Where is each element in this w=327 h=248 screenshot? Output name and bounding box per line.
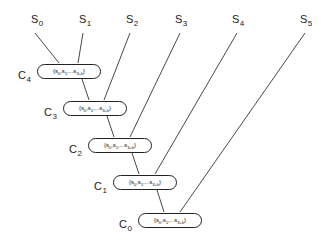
stream-label-subscript: 5 — [308, 19, 312, 28]
cluster-label-subscript: 2 — [77, 149, 81, 158]
edge-s1-to-c4 — [78, 33, 83, 63]
cluster-label-c4: C4 — [18, 70, 30, 81]
stream-label-subscript: 0 — [39, 19, 43, 28]
cluster-label-base: C — [44, 106, 52, 118]
stream-label-base: S — [300, 13, 307, 25]
set-separator: ,s — [111, 142, 115, 148]
set-ellipsis: ,...s — [67, 68, 76, 74]
stream-label-base: S — [126, 13, 133, 25]
set-elem-last-sub: 3+k — [76, 71, 83, 76]
set-separator: ,s — [136, 179, 140, 185]
cluster-label-c1: C1 — [94, 181, 106, 192]
edge-s0-to-c4 — [35, 33, 59, 63]
cluster-label-subscript: 3 — [52, 112, 56, 121]
set-elem-last-sub: 3+k — [177, 220, 184, 225]
diagram-canvas: S0S1S2S3S4S5 C4C3C2C1C0 {s0,s1,...s3+k}{… — [0, 0, 327, 248]
set-ellipsis: ,...s — [93, 105, 102, 111]
cluster-node-set-text: {s0,s1,...s3+k} — [53, 68, 85, 74]
stream-label-s1: S1 — [79, 14, 91, 25]
edge-c3-to-c2 — [107, 116, 114, 137]
set-close-brace: } — [134, 142, 136, 148]
set-separator: ,s — [86, 105, 90, 111]
set-elem-last-sub: 3+k — [127, 145, 134, 150]
set-elem-1-sub: 1 — [141, 182, 143, 187]
stream-label-base: S — [175, 13, 182, 25]
stream-label-s4: S4 — [232, 14, 244, 25]
set-ellipsis: ,...s — [118, 142, 127, 148]
stream-label-s2: S2 — [126, 14, 138, 25]
cluster-label-base: C — [69, 143, 77, 155]
stream-label-subscript: 1 — [87, 19, 91, 28]
stream-label-base: S — [232, 13, 239, 25]
stream-label-s5: S5 — [300, 14, 312, 25]
cluster-node-set-text: {s0,s1,...s3+k} — [79, 105, 111, 111]
set-separator: ,s — [60, 68, 64, 74]
set-elem-0-sub: 0 — [134, 182, 136, 187]
cluster-node-c0[interactable]: {s0,s1,...s3+k} — [138, 213, 202, 228]
stream-label-base: S — [79, 13, 86, 25]
set-close-brace: } — [159, 179, 161, 185]
edge-c1-to-c0 — [157, 190, 164, 212]
set-close-brace: } — [184, 217, 186, 223]
cluster-label-c3: C3 — [44, 107, 56, 118]
set-elem-1-sub: 1 — [65, 71, 67, 76]
stream-label-subscript: 2 — [134, 19, 138, 28]
set-separator: ,s — [161, 217, 165, 223]
edge-s3-to-c2 — [130, 33, 180, 137]
cluster-node-c1[interactable]: {s0,s1,...s3+k} — [113, 175, 177, 190]
set-close-brace: } — [109, 105, 111, 111]
set-elem-0-sub: 0 — [109, 145, 111, 150]
edge-c4-to-c3 — [82, 79, 89, 100]
cluster-label-subscript: 4 — [26, 75, 30, 84]
cluster-label-subscript: 1 — [102, 186, 106, 195]
edge-s2-to-c3 — [104, 33, 130, 100]
set-elem-1-sub: 1 — [116, 145, 118, 150]
edge-c2-to-c1 — [132, 153, 139, 174]
cluster-label-base: C — [119, 218, 127, 230]
cluster-label-base: C — [18, 69, 26, 81]
stream-label-base: S — [31, 13, 38, 25]
set-ellipsis: ,...s — [143, 179, 152, 185]
cluster-node-c4[interactable]: {s0,s1,...s3+k} — [37, 64, 101, 79]
set-elem-0-sub: 0 — [84, 108, 86, 113]
stream-label-subscript: 4 — [240, 19, 244, 28]
stream-label-s3: S3 — [175, 14, 187, 25]
set-elem-last-sub: 3+k — [102, 108, 109, 113]
set-elem-0-sub: 0 — [159, 220, 161, 225]
set-elem-last-sub: 3+k — [152, 182, 159, 187]
cluster-label-c2: C2 — [69, 144, 81, 155]
cluster-node-set-text: {s0,s1,...s3+k} — [104, 142, 136, 148]
cluster-node-set-text: {s0,s1,...s3+k} — [129, 179, 161, 185]
set-ellipsis: ,...s — [168, 217, 177, 223]
edge-s5-to-c0 — [180, 33, 305, 212]
set-close-brace: } — [83, 68, 85, 74]
stream-label-subscript: 3 — [183, 19, 187, 28]
cluster-node-c3[interactable]: {s0,s1,...s3+k} — [63, 101, 127, 116]
cluster-label-base: C — [94, 180, 102, 192]
set-elem-1-sub: 1 — [166, 220, 168, 225]
cluster-node-c2[interactable]: {s0,s1,...s3+k} — [88, 138, 152, 153]
stream-label-s0: S0 — [31, 14, 43, 25]
set-elem-1-sub: 1 — [91, 108, 93, 113]
cluster-label-subscript: 0 — [127, 224, 131, 233]
cluster-label-c0: C0 — [119, 219, 131, 230]
cluster-node-set-text: {s0,s1,...s3+k} — [154, 217, 186, 223]
connection-lines — [0, 0, 327, 248]
set-elem-0-sub: 0 — [58, 71, 60, 76]
edge-s4-to-c1 — [155, 33, 237, 174]
